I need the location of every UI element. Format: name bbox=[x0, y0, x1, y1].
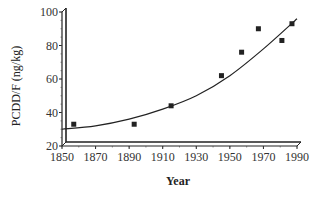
x-axis-title: Year bbox=[166, 174, 191, 188]
x-tick-label: 1970 bbox=[251, 150, 275, 164]
data-point bbox=[239, 50, 244, 55]
y-tick-label: 40 bbox=[46, 106, 58, 120]
y-tick-label: 80 bbox=[46, 39, 58, 53]
x-tick-label: 1850 bbox=[50, 150, 74, 164]
data-point bbox=[132, 122, 137, 127]
data-point bbox=[169, 103, 174, 108]
x-tick-label: 1870 bbox=[84, 150, 108, 164]
x-tick-label: 1890 bbox=[117, 150, 141, 164]
x-tick-label: 1990 bbox=[285, 150, 309, 164]
chart: 2040608010018501870189019101930195019701… bbox=[0, 0, 320, 198]
data-point bbox=[71, 122, 76, 127]
fit-curve-group bbox=[62, 19, 297, 130]
y-tick-label: 60 bbox=[46, 72, 58, 86]
data-point bbox=[256, 26, 261, 31]
x-tick-label: 1910 bbox=[151, 150, 175, 164]
fit-curve bbox=[62, 19, 297, 130]
data-points bbox=[71, 21, 294, 127]
data-point bbox=[219, 73, 224, 78]
data-point bbox=[289, 21, 294, 26]
ticks: 2040608010018501870189019101930195019701… bbox=[40, 5, 309, 164]
y-axis-title: PCDD/F (ng/kg) bbox=[9, 46, 23, 126]
x-tick-label: 1930 bbox=[184, 150, 208, 164]
y-tick-label: 100 bbox=[40, 5, 58, 19]
x-tick-label: 1950 bbox=[218, 150, 242, 164]
data-point bbox=[279, 38, 284, 43]
